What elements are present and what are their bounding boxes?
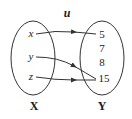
arrow-z-to-15 bbox=[36, 77, 74, 80]
domain-element-x: x bbox=[28, 27, 34, 39]
arrow-x-to-5 bbox=[36, 31, 74, 34]
codomain-element-15: 15 bbox=[99, 72, 111, 84]
function-label: u bbox=[64, 6, 71, 20]
arrow-y-to-15-tail bbox=[74, 66, 96, 79]
domain-element-z: z bbox=[28, 70, 34, 82]
codomain-element-5: 5 bbox=[99, 28, 105, 40]
set-y-label: Y bbox=[98, 99, 107, 113]
set-x-label: X bbox=[30, 99, 39, 113]
domain-element-y: y bbox=[28, 50, 34, 62]
mapping-diagram: u x y z 5 7 8 15 X Y bbox=[0, 0, 132, 119]
codomain-element-7: 7 bbox=[99, 42, 105, 54]
codomain-element-8: 8 bbox=[99, 56, 105, 68]
